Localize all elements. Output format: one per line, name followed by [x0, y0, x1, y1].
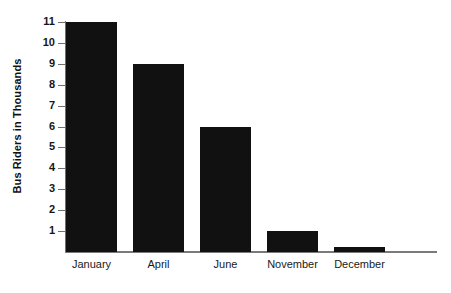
bar — [133, 64, 184, 252]
bar-chart: Bus Riders in Thousands 1234567891011 Ja… — [0, 0, 451, 293]
x-axis-label: November — [255, 258, 330, 270]
x-axis-label: June — [188, 258, 263, 270]
bars-layer — [0, 0, 451, 253]
x-axis-label: December — [322, 258, 397, 270]
x-axis-label: April — [121, 258, 196, 270]
bar — [267, 231, 318, 252]
x-axis-label: January — [54, 258, 129, 270]
bar — [200, 127, 251, 252]
bar — [334, 247, 385, 252]
bar — [66, 22, 117, 252]
